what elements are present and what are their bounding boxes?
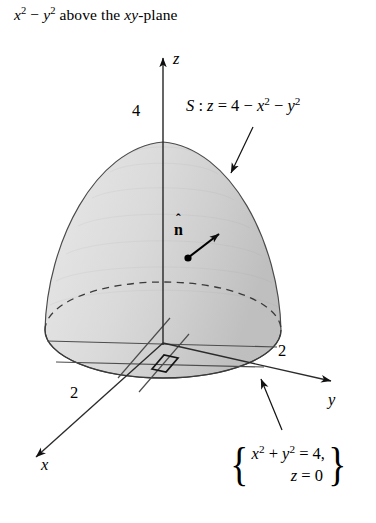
z-axis-tick-label-4: 4 [132, 101, 140, 121]
normal-vector-hat: ˆ [174, 213, 183, 227]
surface-name: S [186, 96, 194, 115]
normal-vector-label: ˆ n [174, 222, 183, 238]
left-brace: { [230, 446, 248, 483]
surface-equation-label: S : z = 4 − x2 − y2 [186, 98, 300, 115]
row1-plus: + [265, 444, 283, 463]
row1-x: x [252, 444, 259, 463]
row2-equals: = 0 [297, 466, 323, 485]
x-axis-label: x [41, 455, 48, 475]
boundary-curve-label: { x2 + y2 = 4, z = 0 } [228, 443, 349, 487]
surface-colon: : [194, 96, 207, 115]
z-axis-label: z [173, 49, 179, 69]
row1-equals: = 4, [295, 444, 325, 463]
surface-eq-y-exponent: 2 [295, 95, 301, 107]
surface-label-leader [231, 127, 253, 173]
y-axis-label: y [328, 390, 335, 410]
boundary-curve-row2: z = 0 [252, 465, 325, 487]
surface-eq-equals: = 4 − [214, 96, 257, 115]
figure-root: x2 − y2 above the xy-plane [0, 0, 376, 523]
x-axis-tick-label-2: 2 [70, 383, 78, 403]
y-axis-tick-label-2: 2 [278, 341, 286, 361]
curve-label-leader [261, 379, 282, 430]
surface-eq-minus: − [270, 96, 288, 115]
right-brace: } [328, 446, 346, 483]
surface-eq-y: y [287, 96, 294, 115]
boundary-curve-row1: x2 + y2 = 4, [252, 443, 325, 465]
